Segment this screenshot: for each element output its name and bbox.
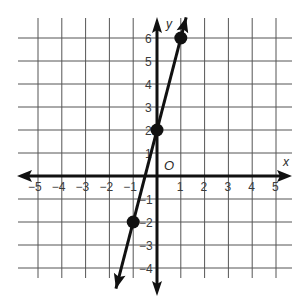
y-tick-label: 4 (145, 78, 152, 92)
y-tick-label: −3 (139, 239, 153, 253)
y-tick-label: 3 (145, 101, 152, 115)
origin-label: O (164, 158, 174, 173)
x-tick-label: −1 (123, 180, 137, 194)
coordinate-plane: −5−4−3−2−112345654321−1−2−3−4 x y O (0, 0, 297, 303)
x-tick-label: −3 (76, 180, 90, 194)
y-tick-label: −4 (139, 262, 153, 276)
x-tick-label: −2 (99, 180, 113, 194)
x-tick-label: −4 (52, 180, 66, 194)
y-tick-label: −2 (139, 216, 153, 230)
x-tick-label: 4 (248, 180, 255, 194)
data-point (151, 124, 164, 137)
y-tick-label: 5 (145, 55, 152, 69)
data-point (174, 32, 187, 45)
x-axis-label: x (282, 155, 290, 169)
data-point (127, 216, 140, 229)
x-tick-label: 3 (224, 180, 231, 194)
y-axis-label: y (165, 17, 173, 31)
x-tick-label: 2 (201, 180, 208, 194)
x-tick-label: 1 (177, 180, 184, 194)
x-tick-label: −5 (28, 180, 42, 194)
axes (17, 17, 292, 296)
y-tick-label: 6 (145, 32, 152, 46)
x-tick-label: 5 (272, 180, 279, 194)
tick-labels: −5−4−3−2−112345654321−1−2−3−4 (28, 32, 279, 276)
grid (18, 18, 292, 278)
